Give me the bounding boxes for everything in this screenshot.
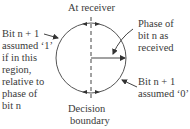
- phase-label-pointer: [113, 29, 133, 54]
- right-bottom-label-pointer: [122, 80, 137, 87]
- left-label-pointer: [44, 34, 58, 38]
- arc-arrow-bottom-left: [82, 90, 87, 94]
- label-at-receiver: At receiver: [68, 2, 115, 14]
- arc-arrow-top-left: [82, 22, 87, 26]
- arc-arrow-bottom-right: [95, 90, 100, 94]
- arc-arrow-top-right: [95, 22, 100, 26]
